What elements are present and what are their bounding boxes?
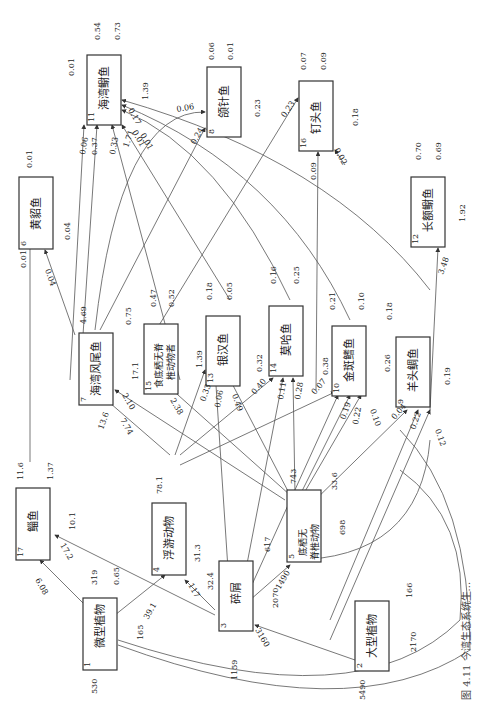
svg-text:1.92: 1.92 bbox=[458, 204, 467, 222]
svg-text:17.2: 17.2 bbox=[58, 542, 75, 562]
svg-text:0.37: 0.37 bbox=[90, 137, 99, 155]
svg-text:0.07: 0.07 bbox=[310, 377, 328, 396]
svg-text:17.1: 17.1 bbox=[131, 362, 140, 380]
svg-text:0.40: 0.40 bbox=[250, 377, 268, 396]
svg-text:椎动物者: 椎动物者 bbox=[165, 344, 176, 380]
svg-text:0.18: 0.18 bbox=[351, 108, 360, 126]
svg-text:微型植物: 微型植物 bbox=[93, 604, 107, 648]
svg-text:0.06: 0.06 bbox=[207, 42, 216, 60]
node-7: 7 海湾风尾鱼 bbox=[79, 333, 113, 405]
svg-text:10: 10 bbox=[332, 383, 341, 393]
svg-text:0.24: 0.24 bbox=[189, 126, 206, 146]
svg-text:16: 16 bbox=[299, 138, 308, 148]
svg-text:1159: 1159 bbox=[230, 660, 239, 680]
node-3: 3 碎屑 bbox=[219, 561, 253, 631]
svg-text:78.1: 78.1 bbox=[155, 476, 164, 494]
svg-text:8: 8 bbox=[207, 129, 216, 134]
svg-text:0.10: 0.10 bbox=[368, 408, 383, 428]
svg-text:0.12: 0.12 bbox=[433, 428, 448, 448]
node-11: 11 海湾鳚鱼 bbox=[87, 55, 121, 125]
svg-text:0.04: 0.04 bbox=[43, 268, 58, 288]
svg-text:金斑鳍鱼: 金斑鳍鱼 bbox=[342, 338, 356, 382]
svg-text:0.26: 0.26 bbox=[383, 354, 392, 372]
svg-text:0.19: 0.19 bbox=[338, 401, 353, 421]
node-10: 10 金斑鳍鱼 bbox=[332, 326, 366, 396]
svg-text:11: 11 bbox=[87, 112, 96, 122]
svg-text:浮游动物: 浮游动物 bbox=[162, 516, 176, 560]
svg-text:166: 166 bbox=[405, 583, 414, 598]
svg-text:0.06: 0.06 bbox=[176, 102, 195, 114]
svg-text:大型植物: 大型植物 bbox=[365, 614, 379, 658]
svg-text:0.47: 0.47 bbox=[149, 289, 158, 307]
svg-text:0.05: 0.05 bbox=[225, 282, 234, 300]
node-2: 2 大型植物 bbox=[355, 601, 389, 671]
svg-text:1.37: 1.37 bbox=[46, 462, 55, 480]
svg-text:0.16: 0.16 bbox=[269, 266, 278, 284]
node-17: 17 鲻鱼 bbox=[16, 488, 50, 560]
svg-text:0.04: 0.04 bbox=[63, 222, 72, 240]
node-1: 1 微型植物 bbox=[83, 598, 117, 670]
svg-text:6: 6 bbox=[19, 241, 28, 246]
node-12: 12 长额鳚鱼 bbox=[411, 177, 445, 247]
svg-text:743: 743 bbox=[289, 469, 298, 484]
node-16: 16 钉头鱼 bbox=[299, 81, 333, 151]
svg-text:3: 3 bbox=[219, 623, 228, 628]
svg-text:0.75: 0.75 bbox=[124, 307, 133, 325]
svg-text:11.6: 11.6 bbox=[16, 462, 25, 480]
svg-text:钉头鱼: 钉头鱼 bbox=[309, 101, 323, 134]
svg-text:0.17: 0.17 bbox=[126, 107, 143, 127]
svg-text:33.6: 33.6 bbox=[330, 472, 339, 490]
svg-text:0.22: 0.22 bbox=[351, 406, 363, 425]
svg-text:165: 165 bbox=[136, 625, 145, 640]
svg-text:0.33: 0.33 bbox=[198, 383, 213, 403]
node-13: 13 银汉鱼 bbox=[206, 316, 240, 386]
svg-text:食底栖无脊: 食底栖无脊 bbox=[153, 343, 164, 388]
svg-text:0.09: 0.09 bbox=[319, 52, 328, 70]
svg-text:0.01: 0.01 bbox=[25, 150, 34, 168]
svg-text:4: 4 bbox=[152, 567, 161, 572]
svg-text:1490: 1490 bbox=[274, 569, 292, 591]
svg-text:0.10: 0.10 bbox=[357, 292, 366, 310]
svg-text:0.25: 0.25 bbox=[292, 266, 301, 284]
svg-text:0.23: 0.23 bbox=[253, 99, 262, 117]
svg-text:0.32: 0.32 bbox=[255, 354, 264, 372]
node-9: 9 羊头鲷鱼 bbox=[396, 337, 430, 407]
svg-text:0.01: 0.01 bbox=[67, 58, 76, 76]
svg-text:13: 13 bbox=[206, 373, 215, 383]
svg-text:莫哈鱼: 莫哈鱼 bbox=[279, 323, 293, 356]
svg-text:长额鳚鱼: 长额鳚鱼 bbox=[421, 188, 435, 232]
svg-text:0.69: 0.69 bbox=[434, 142, 443, 160]
svg-text:5490: 5490 bbox=[358, 680, 367, 700]
svg-text:0.54: 0.54 bbox=[93, 22, 102, 40]
svg-text:0.21: 0.21 bbox=[328, 292, 337, 310]
node-14: 14 莫哈鱼 bbox=[269, 306, 303, 376]
node-6: 6 黄貂鱼 bbox=[19, 177, 53, 249]
svg-text:0.38: 0.38 bbox=[321, 357, 330, 375]
svg-text:6.08: 6.08 bbox=[33, 577, 50, 597]
svg-text:10.1: 10.1 bbox=[68, 512, 77, 530]
svg-text:32.4: 32.4 bbox=[206, 572, 215, 590]
svg-text:117: 117 bbox=[186, 582, 201, 600]
svg-text:2070: 2070 bbox=[271, 588, 280, 608]
svg-text:2.10: 2.10 bbox=[120, 392, 137, 412]
svg-text:530: 530 bbox=[90, 679, 99, 694]
svg-text:2170: 2170 bbox=[409, 632, 418, 652]
svg-text:碎屑: 碎屑 bbox=[229, 582, 243, 604]
svg-text:31.3: 31.3 bbox=[193, 544, 202, 562]
svg-text:0.33: 0.33 bbox=[108, 136, 120, 155]
svg-text:黄貂鱼: 黄貂鱼 bbox=[29, 197, 43, 230]
svg-text:2: 2 bbox=[355, 663, 364, 668]
svg-text:0.70: 0.70 bbox=[414, 142, 423, 160]
svg-text:海湾鳚鱼: 海湾鳚鱼 bbox=[97, 66, 111, 110]
svg-text:0.23: 0.23 bbox=[279, 99, 297, 119]
svg-text:0.49: 0.49 bbox=[230, 393, 245, 413]
food-web-diagram: 1 微型植物 2 大型植物 3 碎屑 4 浮游动物 5 底栖无 脊椎动物 6 黄… bbox=[0, 0, 481, 724]
svg-text:0.02: 0.02 bbox=[332, 147, 349, 167]
svg-text:0.01: 0.01 bbox=[19, 250, 28, 268]
svg-text:底栖无: 底栖无 bbox=[297, 529, 308, 556]
svg-text:698: 698 bbox=[338, 520, 347, 535]
svg-text:0.11: 0.11 bbox=[276, 381, 288, 400]
node-15: 15 食底栖无脊 椎动物者 bbox=[144, 324, 178, 394]
figure-caption: 图 4.11 今湾生态系统生... bbox=[460, 582, 472, 700]
svg-text:17: 17 bbox=[16, 547, 25, 557]
